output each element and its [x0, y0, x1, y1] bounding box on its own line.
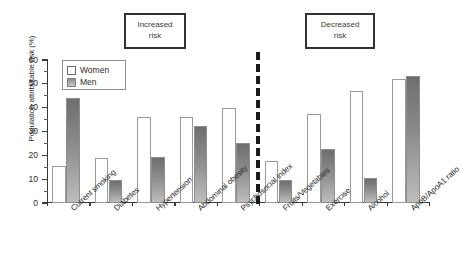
annotation-decreased-risk: Decreased risk	[305, 13, 375, 49]
y-tick-label-40: 40	[20, 102, 38, 112]
y-tick-label-50: 50	[20, 78, 38, 88]
legend-item-men: Men	[67, 76, 121, 88]
legend-swatch-men-icon	[67, 78, 76, 87]
x-tick-end	[429, 202, 430, 206]
risk-divider-dashed-line	[256, 52, 260, 204]
bar-men-0	[66, 98, 80, 203]
bar-women-0	[52, 166, 66, 203]
y-tick-label-20: 20	[20, 150, 38, 160]
legend-swatch-women-icon	[67, 66, 76, 75]
annotation-decreased-line2: risk	[309, 30, 371, 41]
annotation-increased-risk: Increased risk	[124, 13, 186, 49]
legend-label-men: Men	[80, 77, 97, 87]
annotation-increased-line2: risk	[128, 30, 182, 41]
legend-item-women: Women	[67, 64, 121, 76]
bar-men-3	[194, 126, 208, 203]
y-tick-label-10: 10	[20, 174, 38, 184]
bar-women-7	[350, 91, 364, 203]
y-tick-label-30: 30	[20, 126, 38, 136]
chart-legend: Women Men	[62, 60, 126, 90]
bar-women-8	[392, 79, 406, 203]
y-axis-label: Population attributable risk (%)	[27, 14, 36, 164]
annotation-decreased-line1: Decreased	[321, 20, 360, 29]
legend-label-women: Women	[80, 65, 109, 75]
bar-men-8	[406, 76, 420, 204]
annotation-increased-line1: Increased	[137, 20, 172, 29]
y-tick-label-60: 60	[20, 55, 38, 65]
y-tick-label-0: 0	[20, 198, 38, 208]
bar-men-2	[151, 157, 165, 203]
